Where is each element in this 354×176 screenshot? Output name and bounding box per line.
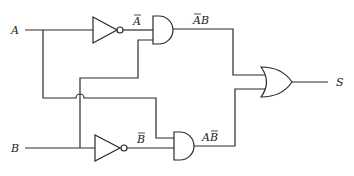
not-gate-a xyxy=(93,17,117,43)
label-and1-part-a: A xyxy=(192,14,201,27)
and-gate-2 xyxy=(174,132,194,160)
label-and1-part-b: B xyxy=(200,14,209,27)
not-gate-b xyxy=(95,135,120,161)
label-not-a: A xyxy=(132,15,141,28)
and-gate-1 xyxy=(153,16,173,44)
label-input-b: B xyxy=(10,142,19,155)
wire-a-to-and2 xyxy=(43,30,174,138)
not-gate-a-bubble xyxy=(117,27,123,33)
label-input-a: A xyxy=(10,24,19,37)
wire-and1-to-or xyxy=(173,29,266,75)
label-not-b: B xyxy=(136,133,145,146)
logic-circuit-diagram: A B S A B AB AB xyxy=(0,0,354,176)
wire-b-to-and1 xyxy=(80,40,153,148)
label-and1-out: AB xyxy=(192,14,209,27)
label-output-s: S xyxy=(336,76,344,89)
label-and2-part-b: B xyxy=(209,131,218,144)
label-and2-part-a: A xyxy=(201,131,210,144)
or-gate xyxy=(261,67,292,97)
not-gate-b-bubble xyxy=(121,145,127,151)
label-and2-out: AB xyxy=(201,131,218,144)
